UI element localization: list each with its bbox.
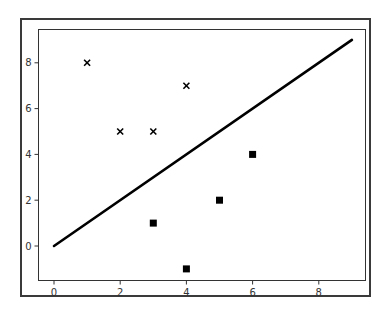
scatter-plot: 02468 02468 <box>0 0 388 313</box>
decision-line <box>54 40 352 246</box>
x-tick-label: 2 <box>117 287 123 298</box>
x-axis-ticks: 02468 <box>51 281 322 298</box>
square-marker <box>216 197 223 204</box>
decision-line-path <box>54 40 352 246</box>
square-marker <box>183 265 190 272</box>
x-tick-label: 6 <box>249 287 255 298</box>
y-axis-ticks: 02468 <box>25 57 38 251</box>
y-tick-label: 8 <box>25 57 31 68</box>
x-tick-label: 4 <box>183 287 189 298</box>
square-marker <box>249 151 256 158</box>
x-tick-label: 8 <box>316 287 322 298</box>
x-marker <box>150 129 156 135</box>
y-tick-label: 4 <box>25 149 31 160</box>
y-tick-label: 0 <box>25 241 31 252</box>
axes-box <box>39 30 366 281</box>
square-marker <box>150 220 157 227</box>
x-tick-label: 0 <box>51 287 57 298</box>
y-tick-label: 6 <box>25 103 31 114</box>
y-tick-label: 2 <box>25 195 31 206</box>
x-marker <box>117 129 123 135</box>
x-marker <box>84 60 90 66</box>
x-marker <box>183 83 189 89</box>
